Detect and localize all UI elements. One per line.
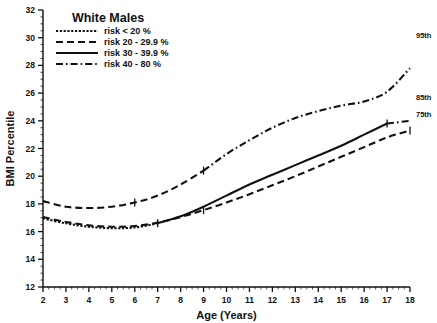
- svg-text:12: 12: [26, 282, 36, 292]
- svg-text:20: 20: [26, 171, 36, 181]
- svg-text:26: 26: [26, 88, 36, 98]
- bmi-percentile-chart: 1214161820222426283032234567891011121314…: [0, 0, 437, 323]
- svg-text:22: 22: [26, 144, 36, 154]
- chart-canvas: 1214161820222426283032234567891011121314…: [0, 0, 437, 323]
- curve-95th-dashed: [43, 171, 204, 208]
- svg-text:14: 14: [314, 295, 324, 305]
- svg-text:13: 13: [291, 295, 301, 305]
- svg-text:30: 30: [26, 33, 36, 43]
- curve-85th-dashdot: [387, 121, 410, 124]
- svg-text:5: 5: [109, 295, 114, 305]
- svg-text:15: 15: [336, 295, 346, 305]
- svg-text:6: 6: [132, 295, 137, 305]
- x-axis-title: Age (Years): [196, 309, 257, 321]
- curve-85th-solid: [158, 124, 387, 224]
- curve-75th-dashed: [43, 130, 410, 226]
- svg-text:2: 2: [41, 295, 46, 305]
- data-curves: [43, 68, 410, 228]
- y-axis-title: BMI Percentile: [4, 111, 16, 187]
- svg-text:18: 18: [26, 199, 36, 209]
- svg-text:8: 8: [178, 295, 183, 305]
- svg-text:14: 14: [26, 254, 36, 264]
- svg-text:16: 16: [359, 295, 369, 305]
- curve-95th-dashdot: [204, 68, 410, 170]
- svg-text:28: 28: [26, 60, 36, 70]
- svg-text:11: 11: [245, 295, 254, 305]
- axis-labels: 1214161820222426283032234567891011121314…: [4, 5, 415, 321]
- svg-text:32: 32: [26, 5, 36, 15]
- svg-text:7: 7: [155, 295, 160, 305]
- svg-text:10: 10: [222, 295, 232, 305]
- svg-text:3: 3: [64, 295, 69, 305]
- svg-text:18: 18: [405, 295, 415, 305]
- svg-text:17: 17: [382, 295, 392, 305]
- svg-text:9: 9: [201, 295, 206, 305]
- svg-text:24: 24: [26, 116, 36, 126]
- svg-text:16: 16: [26, 227, 36, 237]
- svg-text:12: 12: [268, 295, 278, 305]
- svg-text:4: 4: [87, 295, 92, 305]
